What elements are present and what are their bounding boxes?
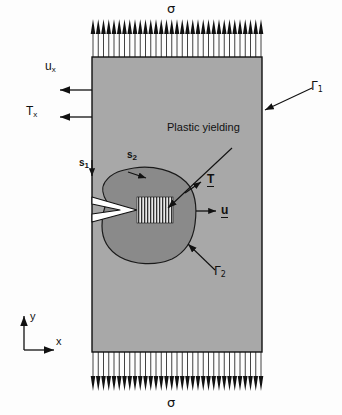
tx-subscript: x [33, 110, 37, 119]
gamma1-label: Γ1 [311, 80, 323, 94]
top-load-arrows [91, 19, 264, 57]
x-axis-label: x [56, 336, 62, 347]
s2-subscript: 2 [133, 153, 137, 162]
ux-label: ux [45, 60, 56, 74]
bottom-load-arrows [91, 352, 264, 391]
ux-base: u [45, 59, 52, 73]
s1-subscript: 1 [85, 161, 89, 170]
bottom-stress-label: σ [167, 396, 175, 409]
figure-canvas: σ σ ux Tx Γ1 Γ2 s1 s2 Plastic yielding T… [0, 0, 342, 415]
gamma2-label: Γ2 [214, 265, 226, 279]
gamma1-leader [265, 88, 312, 110]
coordinate-axes [24, 316, 54, 350]
plastic-yielding-label: Plastic yielding [167, 122, 240, 133]
top-stress-label: σ [167, 2, 175, 15]
y-axis-label: y [30, 311, 36, 322]
gamma2-base: Γ [214, 264, 221, 278]
traction-vector-label: T [207, 173, 214, 187]
s2-label: s2 [127, 150, 137, 162]
gamma2-subscript: 2 [221, 270, 226, 279]
yield-strip-hatching [137, 197, 173, 223]
tx-label: Tx [26, 105, 37, 119]
ux-subscript: x [52, 65, 56, 74]
s1-label: s1 [79, 158, 89, 170]
gamma1-base: Γ [311, 79, 318, 93]
gamma1-subscript: 1 [318, 85, 323, 94]
displacement-vector-label: u [221, 204, 228, 218]
